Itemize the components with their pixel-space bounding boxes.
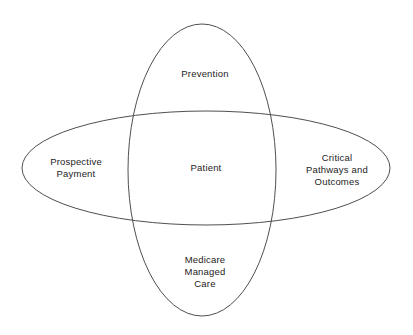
venn-diagram: Prevention Prospective Payment Patient C… [0,0,413,335]
vertical-ellipse [128,24,276,316]
horizontal-ellipse [22,111,390,225]
venn-diagram-canvas [0,0,413,335]
